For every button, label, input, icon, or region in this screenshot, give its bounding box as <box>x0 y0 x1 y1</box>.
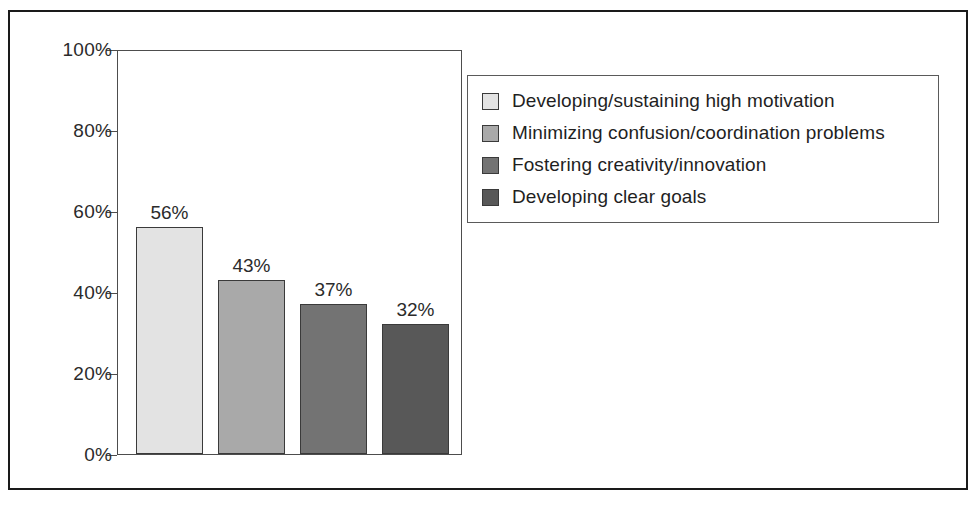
bar: 32% <box>382 324 449 454</box>
legend-swatch-icon <box>482 125 499 142</box>
plot-area: 0%20%40%60%80%100% 56%43%37%32% <box>117 50 462 455</box>
bar-value-label: 37% <box>314 279 352 301</box>
bar-value-label: 43% <box>232 255 270 277</box>
legend-item: Developing clear goals <box>482 181 938 213</box>
plot-top-border <box>117 50 462 51</box>
legend-item-label: Developing clear goals <box>512 186 706 208</box>
bar-value-label: 56% <box>150 202 188 224</box>
legend-item-label: Minimizing confusion/coordination proble… <box>512 122 885 144</box>
legend-item: Fostering creativity/innovation <box>482 149 938 181</box>
legend-item: Minimizing confusion/coordination proble… <box>482 117 938 149</box>
legend-swatch-icon <box>482 189 499 206</box>
legend-swatch-icon <box>482 93 499 110</box>
legend-item-label: Developing/sustaining high motivation <box>512 90 835 112</box>
y-axis-tick-label: 60% <box>73 201 112 223</box>
y-axis-tick-label: 20% <box>73 363 112 385</box>
y-axis-tick-label: 80% <box>73 120 112 142</box>
plot-right-border <box>461 50 462 455</box>
y-axis-line <box>117 50 118 455</box>
bar: 43% <box>218 280 285 454</box>
bar: 56% <box>136 227 203 454</box>
y-axis-tick-label: 40% <box>73 282 112 304</box>
legend-item-label: Fostering creativity/innovation <box>512 154 766 176</box>
legend-swatch-icon <box>482 157 499 174</box>
chart-legend: Developing/sustaining high motivationMin… <box>467 75 939 223</box>
figure-frame: 0%20%40%60%80%100% 56%43%37%32% Developi… <box>8 10 968 490</box>
y-axis-tick-label: 0% <box>84 444 112 466</box>
x-axis-line <box>117 454 462 455</box>
bar: 37% <box>300 304 367 454</box>
bar-value-label: 32% <box>396 299 434 321</box>
y-axis-tick-label: 100% <box>63 39 112 61</box>
legend-item: Developing/sustaining high motivation <box>482 85 938 117</box>
